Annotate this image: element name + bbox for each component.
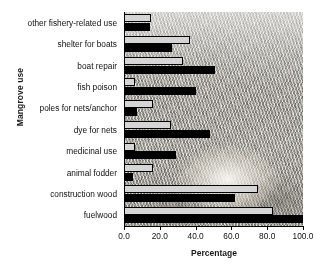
y-axis-tick-label: boat repair [0, 61, 117, 71]
x-axis-title: Percentage [124, 248, 304, 258]
x-axis-tick-mark [124, 227, 125, 230]
bar-series-dark-1 [124, 44, 172, 52]
bar-series-dark-2 [124, 66, 215, 74]
bar-series-light-8 [124, 185, 258, 193]
bar-series-light-4 [124, 100, 153, 108]
bar-series-light-3 [124, 78, 135, 86]
bar-series-dark-5 [124, 130, 210, 138]
bar-series-dark-4 [124, 108, 137, 116]
bar-series-light-9 [124, 207, 273, 215]
x-axis-tick-mark [231, 227, 232, 230]
x-axis-tick-mark [196, 227, 197, 230]
y-axis-tick-label: other fishery-related use [0, 18, 117, 28]
bar-series-dark-7 [124, 173, 133, 181]
y-axis-tick-label: medicinal use [0, 146, 117, 156]
bar-series-dark-9 [124, 215, 303, 223]
x-axis-tick-label: 40.0 [176, 231, 216, 241]
bar-series-light-6 [124, 143, 135, 151]
bar-series-dark-0 [124, 23, 150, 31]
x-axis-tick-label: 60.0 [211, 231, 251, 241]
chart-figure: Mangrove use other fishery-related usesh… [0, 0, 326, 272]
bar-series-light-7 [124, 164, 153, 172]
x-axis-tick-label: 100.0 [283, 231, 323, 241]
bar-series-dark-6 [124, 151, 176, 159]
y-axis-tick-label: dye for nets [0, 125, 117, 135]
y-axis-tick-label: poles for nets/anchor [0, 103, 117, 113]
y-axis-tick-label: animal fodder [0, 168, 117, 178]
bar-series-light-5 [124, 121, 171, 129]
y-axis-tick-label: shelter for boats [0, 39, 117, 49]
bar-series-light-1 [124, 36, 190, 44]
bar-series-light-2 [124, 57, 183, 65]
x-axis-tick-mark [160, 227, 161, 230]
y-axis-line [124, 12, 125, 227]
x-axis-tick-label: 0.0 [104, 231, 144, 241]
x-axis-line [124, 226, 304, 227]
y-axis-tick-label: construction wood [0, 189, 117, 199]
y-axis-tick-labels: other fishery-related useshelter for boa… [0, 12, 120, 226]
x-axis-tick-mark [267, 227, 268, 230]
bar-series-dark-8 [124, 194, 235, 202]
plot-area [124, 12, 303, 226]
x-axis-tick-label: 20.0 [140, 231, 180, 241]
y-axis-tick-label: fuelwood [0, 210, 117, 220]
bar-series-dark-3 [124, 87, 196, 95]
x-axis-tick-label: 80.0 [247, 231, 287, 241]
y-axis-tick-label: fish poison [0, 82, 117, 92]
bar-series-light-0 [124, 14, 151, 22]
x-axis-tick-mark [303, 227, 304, 230]
